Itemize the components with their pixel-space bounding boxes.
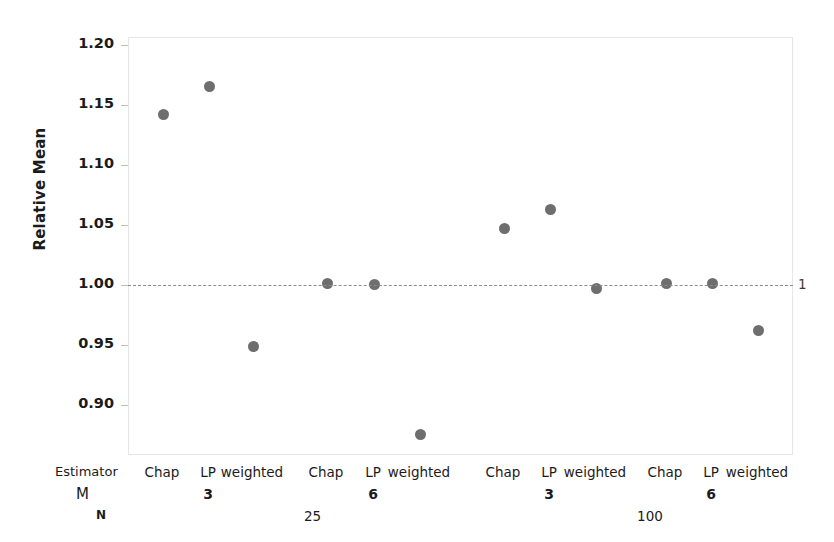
y-axis-tick-mark	[121, 405, 128, 406]
estimator-label: weighted	[221, 464, 283, 480]
y-axis-tick-label: 0.90	[78, 395, 114, 411]
data-point	[158, 109, 169, 120]
estimator-label: weighted	[564, 464, 626, 480]
data-point	[204, 81, 215, 92]
relative-mean-scatter-figure: Relative Mean 1.201.151.101.051.000.950.…	[0, 0, 834, 542]
data-point	[322, 278, 333, 289]
y-axis-tick-mark	[121, 225, 128, 226]
plot-area	[128, 37, 793, 455]
estimator-label: weighted	[388, 464, 450, 480]
y-axis-tick-mark	[121, 165, 128, 166]
estimator-label: weighted	[726, 464, 788, 480]
m-value-label: 3	[203, 486, 213, 502]
estimator-label: LP	[200, 464, 216, 480]
estimator-label: Chap	[486, 464, 521, 480]
y-axis-tick-mark	[121, 105, 128, 106]
y-axis-tick-label: 1.05	[78, 215, 114, 231]
data-point	[707, 278, 718, 289]
estimator-label: LP	[541, 464, 557, 480]
data-point	[415, 429, 426, 440]
data-point	[499, 223, 510, 234]
axis-row-label-m: M	[76, 485, 89, 503]
y-axis-tick-label: 1.00	[78, 275, 114, 291]
m-value-label: 6	[706, 486, 716, 502]
reference-line-label: 1	[798, 276, 807, 292]
y-axis-tick-mark	[121, 345, 128, 346]
estimator-label: LP	[365, 464, 381, 480]
y-axis-tick-mark	[121, 45, 128, 46]
data-point	[248, 341, 259, 352]
y-axis-tick-label: 0.95	[78, 335, 114, 351]
estimator-label: Chap	[648, 464, 683, 480]
axis-row-label-estimator: Estimator	[55, 464, 118, 479]
n-value-label: 25	[304, 508, 321, 524]
estimator-label: Chap	[309, 464, 344, 480]
y-axis-tick-mark	[121, 285, 128, 286]
data-point	[545, 204, 556, 215]
estimator-label: LP	[703, 464, 719, 480]
y-axis-tick-label: 1.10	[78, 155, 114, 171]
y-axis-title: Relative Mean	[31, 109, 49, 269]
x-axis-label-block: Estimator M N ChapLPweightedChapLPweight…	[0, 455, 834, 542]
n-value-label: 100	[637, 508, 663, 524]
y-axis-tick-label: 1.20	[78, 35, 114, 51]
m-value-label: 6	[368, 486, 378, 502]
data-point	[753, 325, 764, 336]
data-point	[661, 278, 672, 289]
estimator-label: Chap	[145, 464, 180, 480]
m-value-label: 3	[544, 486, 554, 502]
axis-row-label-n: N	[96, 508, 106, 522]
reference-line	[128, 285, 793, 286]
y-axis-tick-label: 1.15	[78, 95, 114, 111]
